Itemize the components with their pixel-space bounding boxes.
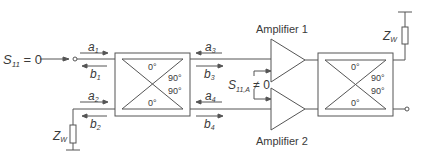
wave-label-a2: a2: [88, 89, 99, 103]
amplifier-2-icon: [271, 88, 305, 130]
amplifier-2-label: Amplifier 2: [256, 135, 308, 147]
termination-label-right: ZW: [382, 29, 398, 43]
wave-label-b4: b4: [204, 117, 215, 131]
amplifier-1-label: Amplifier 1: [256, 23, 308, 35]
termination-resistor-right-icon: [402, 27, 408, 44]
phase-right-lower-right: 90°: [371, 86, 385, 96]
phase-right-bottom: 0°: [351, 98, 360, 108]
wave-label-a3: a3: [205, 40, 216, 54]
wave-label-b3: b3: [204, 67, 215, 81]
phase-left-lower-right: 90°: [168, 86, 182, 96]
wave-label-a4: a4: [205, 89, 216, 103]
phase-right-top: 0°: [351, 62, 360, 72]
input-reflection-label: S11 = 0: [3, 52, 42, 69]
phase-left-bottom: 0°: [148, 98, 157, 108]
wave-label-b2: b2: [90, 117, 101, 131]
wave-label-b1: b1: [90, 67, 101, 81]
phase-left-top: 0°: [148, 62, 157, 72]
termination-resistor-left-icon: [70, 125, 76, 143]
balanced-amplifier-diagram: S11 = 0 a1 b1 a2 b2 a3 b3 a4 b4 S11,A ≠ …: [0, 0, 424, 167]
amplifier-reflection-label: S11,A ≠ 0: [228, 78, 270, 93]
phase-right-upper-right: 90°: [371, 73, 385, 83]
input-port-icon: [73, 57, 77, 61]
output-port-icon: [405, 107, 409, 111]
termination-line-right: [393, 44, 405, 60]
termination-label-left: ZW: [52, 129, 68, 143]
amplifier-1-icon: [271, 39, 305, 82]
phase-left-upper-right: 90°: [168, 73, 182, 83]
wave-label-a1: a1: [88, 40, 99, 54]
